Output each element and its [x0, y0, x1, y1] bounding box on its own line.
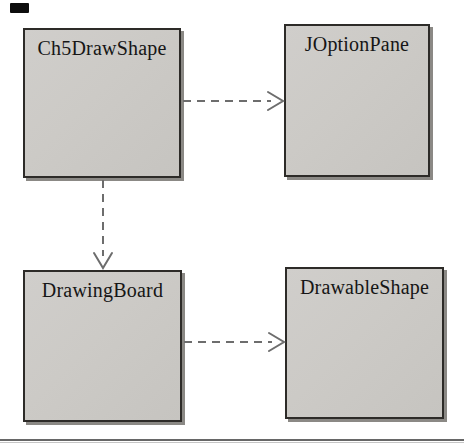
class-label-drawingboard: DrawingBoard	[25, 272, 180, 302]
scan-corner-mark	[10, 3, 29, 13]
dependency-arrow-ch5drawshape-to-drawingboard	[94, 180, 112, 268]
page-bottom-rule	[0, 439, 464, 441]
class-label-drawableshape: DrawableShape	[287, 269, 442, 299]
class-box-drawableshape: DrawableShape	[285, 267, 444, 419]
dependency-arrow-ch5drawshape-to-joptionpane	[183, 92, 283, 110]
class-label-ch5drawshape: Ch5DrawShape	[25, 30, 179, 60]
class-label-joptionpane: JOptionPane	[286, 26, 428, 56]
class-box-ch5drawshape: Ch5DrawShape	[23, 28, 181, 178]
class-box-joptionpane: JOptionPane	[284, 24, 430, 177]
dependency-arrow-drawingboard-to-drawableshape	[184, 333, 284, 351]
class-box-drawingboard: DrawingBoard	[23, 270, 182, 422]
diagram-canvas: Ch5DrawShape JOptionPane DrawingBoard Dr…	[0, 0, 464, 447]
page-bottom-rule-echo	[0, 442, 464, 443]
